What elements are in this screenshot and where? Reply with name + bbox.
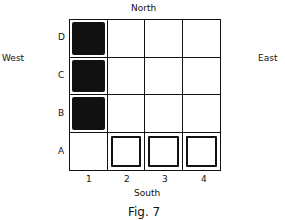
cell-a3: [145, 133, 183, 171]
cell-b1: [70, 95, 108, 133]
cell-c4: [183, 58, 221, 96]
cell-a1: [70, 133, 108, 171]
col-label-4: 4: [201, 174, 207, 184]
south-label: South: [134, 188, 160, 198]
cell-a2: [108, 133, 146, 171]
col-label-1: 1: [86, 174, 92, 184]
figure-caption: Fig. 7: [128, 207, 160, 217]
cell-d1: [70, 20, 108, 58]
cell-d4: [183, 20, 221, 58]
row-label-a: A: [58, 146, 64, 156]
cell-c3: [145, 58, 183, 96]
cell-a4: [183, 133, 221, 171]
north-label: North: [131, 3, 156, 13]
cell-c1: [70, 58, 108, 96]
cell-b2: [108, 95, 146, 133]
cell-d2: [108, 20, 146, 58]
cell-b3: [145, 95, 183, 133]
row-label-d: D: [58, 32, 65, 42]
col-label-3: 3: [162, 174, 168, 184]
cell-c2: [108, 58, 146, 96]
row-label-c: C: [58, 70, 64, 80]
col-label-2: 2: [124, 174, 130, 184]
row-label-b: B: [58, 108, 64, 118]
west-label: West: [2, 53, 24, 63]
east-label: East: [258, 53, 277, 63]
grid: [69, 19, 221, 171]
cell-d3: [145, 20, 183, 58]
cell-b4: [183, 95, 221, 133]
